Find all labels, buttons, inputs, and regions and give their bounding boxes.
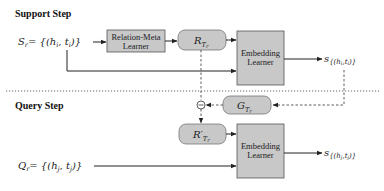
query-score-label: s{(hj,tj)} [324, 147, 356, 161]
svg-text:Learner: Learner [247, 57, 274, 67]
svg-text:Qr= {(hj, tj)}: Qr= {(hj, tj)} [18, 160, 82, 173]
query-set-label: Qr= {(hj, tj)} [18, 160, 82, 173]
support-set-label: Sr= {(hi, ti)} [18, 36, 81, 49]
svg-text:Learner: Learner [247, 150, 274, 160]
relation-meta-box: RTr [178, 30, 226, 50]
svg-text:s{(hj,tj)}: s{(hj,tj)} [324, 147, 356, 161]
embedding-learner-support-box: Embedding Learner [237, 31, 284, 85]
svg-text:s{(hi,ti)}: s{(hi,ti)} [324, 53, 356, 66]
gradient-box: GTr [223, 96, 271, 114]
meta-learning-diagram: Support Step Sr= {(hi, ti)} Relation-Met… [0, 0, 384, 191]
arrow-support-to-embedding [67, 50, 236, 71]
support-step-title: Support Step [15, 8, 72, 19]
updated-relation-meta-box: R′Tr [179, 124, 226, 144]
minus-operator-icon [197, 101, 205, 109]
svg-text:Sr= {(hi, ti)}: Sr= {(hi, ti)} [18, 36, 81, 49]
embedding-learner-query-box: Embedding Learner [237, 124, 284, 178]
query-step-title: Query Step [15, 100, 64, 111]
svg-text:Learner: Learner [123, 41, 150, 51]
support-score-label: s{(hi,ti)} [324, 53, 356, 66]
relation-meta-learner-box: Relation-Meta Learner [107, 30, 165, 52]
